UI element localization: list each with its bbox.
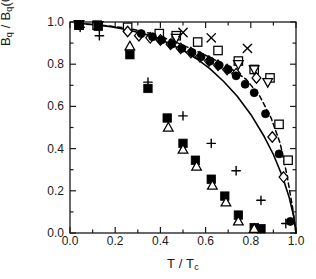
data-point-circle-filled bbox=[250, 89, 258, 97]
x-tick-label: 0.2 bbox=[107, 234, 124, 248]
data-point-circle-filled bbox=[241, 80, 249, 88]
data-point-square-filled bbox=[126, 51, 134, 59]
data-point-square-filled bbox=[94, 22, 102, 30]
axis-ticks bbox=[70, 22, 296, 233]
data-point-plus bbox=[232, 167, 240, 175]
data-point-plus bbox=[257, 196, 265, 204]
y-tick-label: 0.4 bbox=[32, 142, 64, 156]
y-tick-label: 0.2 bbox=[32, 184, 64, 198]
x-tick-label: 0.8 bbox=[242, 234, 259, 248]
data-point-circle-filled bbox=[232, 72, 240, 80]
y-tick-label: 1.0 bbox=[32, 15, 64, 29]
data-point-square-open bbox=[275, 120, 283, 128]
x-axis-label-text: T / Tc bbox=[167, 256, 199, 271]
data-point-triangle-up-open bbox=[125, 41, 135, 50]
data-point-square-filled bbox=[163, 114, 171, 122]
data-point-circle-filled bbox=[206, 57, 214, 65]
curve-series-group bbox=[75, 23, 296, 233]
y-axis-label: Bq / Bq(0) bbox=[0, 0, 14, 78]
y-tick-label: 0.8 bbox=[32, 57, 64, 71]
data-point-circle-filled bbox=[262, 110, 270, 118]
series-open-triangle-up bbox=[125, 41, 259, 232]
data-point-x bbox=[207, 34, 215, 42]
data-point-diamond-open bbox=[268, 132, 277, 143]
data-point-circle-filled bbox=[197, 53, 205, 61]
x-tick-label: 0.6 bbox=[197, 234, 214, 248]
data-point-circle-filled bbox=[215, 61, 223, 69]
data-point-circle-filled bbox=[178, 44, 186, 52]
x-tick-label: 0.4 bbox=[152, 234, 169, 248]
data-point-circle-filled bbox=[188, 49, 196, 57]
axes-frame bbox=[70, 22, 296, 233]
data-point-series-group bbox=[74, 21, 294, 233]
y-tick-label: 0.6 bbox=[32, 99, 64, 113]
y-tick-label: 0.0 bbox=[32, 226, 64, 240]
y-axis-label-text: Bq / Bq(0) bbox=[0, 0, 13, 46]
data-point-square-open bbox=[193, 38, 201, 46]
data-point-plus bbox=[207, 139, 215, 147]
data-point-circle-filled bbox=[137, 30, 145, 38]
x-tick-label: 1.0 bbox=[288, 234, 305, 248]
curve-bcs-solid-curve bbox=[75, 23, 296, 233]
chart-figure: Bq / Bq(0) T / Tc 0.00.20.40.60.81.0 0.0… bbox=[0, 0, 316, 279]
data-point-circle-filled bbox=[149, 33, 157, 41]
series-open-triangle-down bbox=[74, 21, 272, 88]
data-point-square-filled bbox=[75, 21, 83, 29]
data-point-circle-filled bbox=[224, 65, 232, 73]
series-filled-circle bbox=[137, 30, 294, 226]
data-point-plus bbox=[179, 112, 187, 120]
x-axis-label: T / Tc bbox=[70, 256, 296, 272]
data-point-circle-filled bbox=[168, 40, 176, 48]
data-point-triangle-down-open bbox=[263, 79, 273, 88]
data-point-square-open bbox=[284, 156, 292, 164]
data-point-x bbox=[243, 44, 251, 52]
data-point-circle-filled bbox=[275, 150, 283, 158]
data-point-circle-filled bbox=[158, 36, 166, 44]
plot-frame bbox=[70, 22, 296, 233]
data-point-plus bbox=[95, 32, 103, 40]
curve-dashed-upper-curve bbox=[79, 24, 296, 233]
x-tick-label: 0.0 bbox=[62, 234, 79, 248]
data-point-square-open bbox=[214, 46, 222, 54]
data-point-triangle-up-open bbox=[163, 122, 173, 131]
